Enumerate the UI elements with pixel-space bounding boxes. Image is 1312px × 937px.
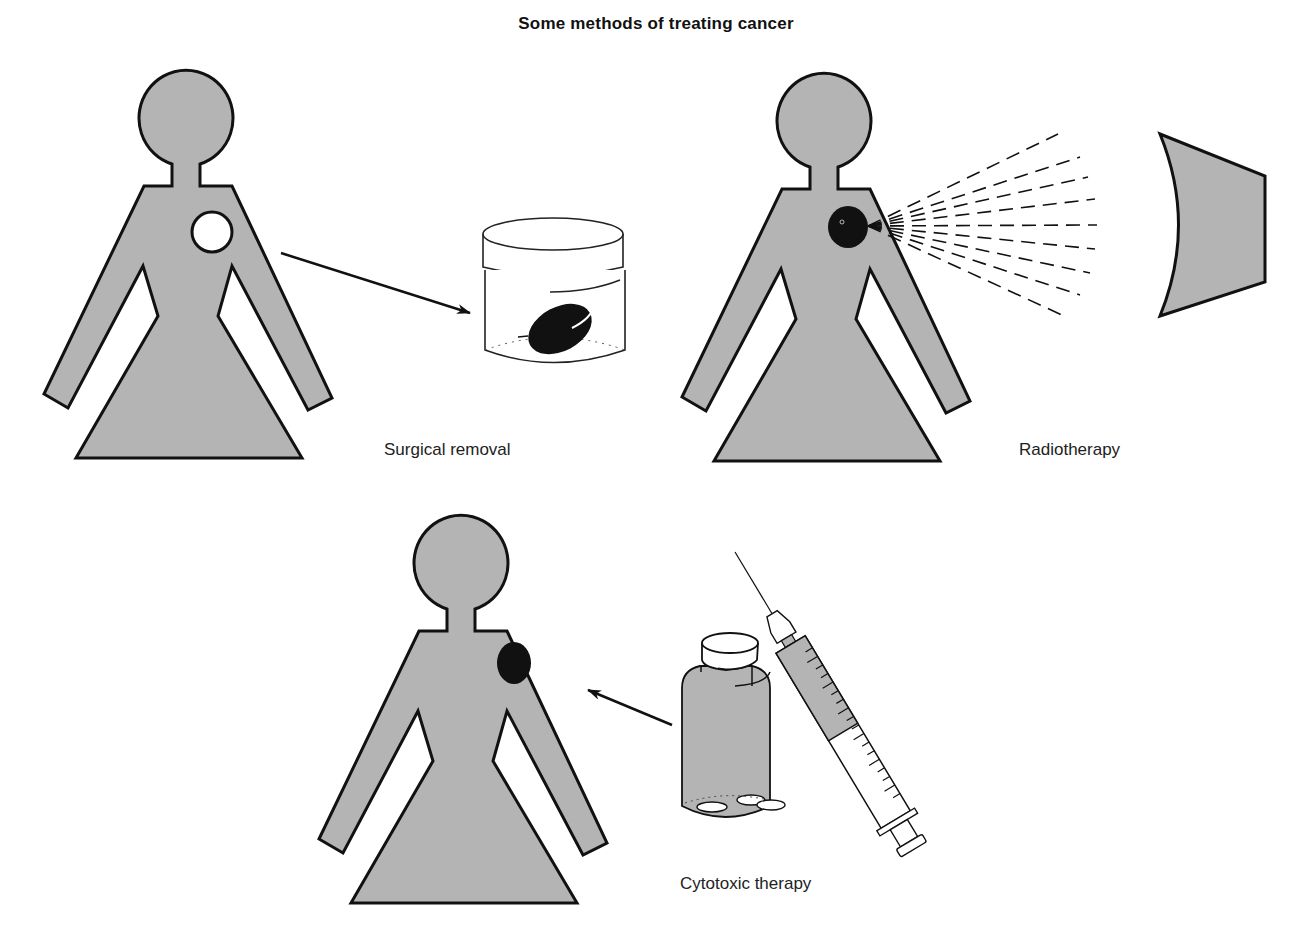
- caption-radiotherapy: Radiotherapy: [1019, 440, 1120, 460]
- arrow-icon: [281, 253, 470, 313]
- removed-site-icon: [192, 212, 232, 252]
- tumor-icon: [497, 642, 531, 684]
- panel-radiotherapy: [682, 73, 1265, 461]
- radiation-source-icon: [1160, 134, 1265, 316]
- caption-cytotoxic-therapy: Cytotoxic therapy: [680, 874, 811, 894]
- human-figure: [319, 515, 607, 903]
- caption-surgical-removal: Surgical removal: [384, 440, 511, 460]
- human-figure: [44, 70, 332, 458]
- human-figure: [682, 73, 970, 461]
- tumor-icon: [828, 206, 868, 248]
- specimen-jar-icon: [483, 218, 625, 364]
- diagram-canvas: [0, 0, 1312, 937]
- arrow-icon: [588, 690, 672, 725]
- panel-surgical-removal: [44, 70, 625, 458]
- panel-cytotoxic-therapy: [319, 515, 933, 903]
